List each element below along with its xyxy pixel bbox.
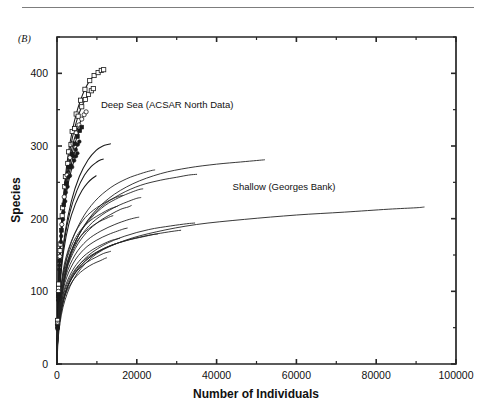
data-point-marker [68,174,72,178]
data-point-marker [83,97,87,101]
series-curve [57,207,424,364]
x-tick-label: 60000 [282,369,311,381]
y-tick-label: 200 [30,213,48,225]
axis-ticks [57,37,456,364]
panel-label: (B) [18,33,31,45]
figure-root: (B) 020000400006000080000100000 01002003… [0,0,489,417]
data-point-marker [78,129,82,133]
rarefaction-chart: (B) 020000400006000080000100000 01002003… [0,0,489,417]
data-point-marker [80,105,84,109]
data-point-marker [83,87,87,91]
data-point-marker [61,218,65,222]
series-annotations: Deep Sea (ACSAR North Data)Shallow (Geor… [101,99,336,191]
series-curve [57,228,127,364]
data-point-marker [56,298,60,302]
data-point-marker [58,259,62,263]
data-point-marker [92,73,96,77]
data-point-marker [58,249,62,253]
data-point-marker [62,203,66,207]
data-point-marker [58,254,62,258]
y-axis-title: Species [9,177,23,223]
data-point-marker [72,159,76,163]
series-curves [57,70,424,364]
axis-frame [57,37,456,364]
x-tick-labels: 020000400006000080000100000 [54,369,474,381]
data-point-marker [62,210,66,214]
data-point-marker [63,199,67,203]
data-point-marker [91,86,95,90]
data-point-marker [74,148,78,152]
data-point-marker [80,125,84,129]
data-point-marker [78,140,82,144]
data-point-marker [59,240,63,244]
y-tick-labels: 0100200300400 [30,67,48,370]
series-curve [57,189,143,364]
data-point-marker [58,263,62,267]
data-point-marker [72,126,76,130]
data-point-marker [62,195,66,199]
data-point-marker [59,234,63,238]
y-tick-label: 300 [30,140,48,152]
y-tick-label: 0 [42,358,48,370]
data-point-marker [60,222,64,226]
data-point-marker [56,282,60,286]
series-curve [57,230,181,364]
data-point-marker [78,98,82,102]
data-point-marker [75,135,79,139]
data-point-marker [56,327,60,331]
x-tick-label: 40000 [202,369,231,381]
data-point-marker [88,79,92,83]
data-point-marker [58,268,62,272]
data-point-marker [76,114,80,118]
x-tick-label: 20000 [122,369,151,381]
x-tick-label: 80000 [362,369,391,381]
x-tick-label: 0 [54,369,60,381]
series-annotation-label: Deep Sea (ACSAR North Data) [101,99,234,110]
series-annotation-label: Shallow (Georges Bank) [233,181,336,192]
x-axis-title: Number of Individuals [193,387,319,401]
data-point-marker [60,214,64,218]
data-point-marker [60,228,64,232]
x-tick-label: 100000 [438,369,473,381]
data-point-marker [70,165,74,169]
data-point-marker [84,110,88,114]
data-point-marker [80,117,84,121]
data-point-marker [102,68,106,72]
data-point-marker [66,185,70,189]
y-tick-label: 400 [30,67,48,79]
data-point-marker [64,191,68,195]
data-point-marker [76,151,80,155]
y-tick-label: 100 [30,285,48,297]
